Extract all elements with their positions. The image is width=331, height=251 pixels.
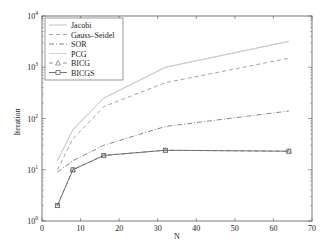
legend-entry: BICGS xyxy=(71,69,95,78)
legend: JacobiGauss–SeidelSORPCGBICGBICGS xyxy=(45,18,123,80)
series-line xyxy=(57,150,288,205)
legend-entry: Jacobi xyxy=(71,21,92,30)
series-line xyxy=(57,111,288,172)
x-tick-label: 10 xyxy=(77,224,85,233)
x-tick-label: 40 xyxy=(192,224,200,233)
x-tick-label: 20 xyxy=(115,224,123,233)
x-tick-label: 0 xyxy=(40,224,44,233)
x-tick-label: 60 xyxy=(269,224,277,233)
series-line xyxy=(57,150,288,205)
x-axis-label: N xyxy=(174,232,180,241)
legend-entry: SOR xyxy=(71,40,87,49)
legend-entry: Gauss–Seidel xyxy=(71,31,115,40)
y-tick-label: 104 xyxy=(27,10,38,21)
x-tick-label: 70 xyxy=(308,224,316,233)
y-tick-label: 101 xyxy=(27,164,38,175)
y-tick-label: 102 xyxy=(27,113,38,124)
x-tick-label: 30 xyxy=(154,224,162,233)
y-axis-label: Iteration xyxy=(13,108,22,135)
chart: 010203040506070 100101102103104 N Iterat… xyxy=(0,0,331,251)
x-tick-label: 50 xyxy=(231,224,239,233)
y-tick-label: 103 xyxy=(27,61,38,72)
legend-entry: BICG xyxy=(71,59,90,68)
legend-entry: PCG xyxy=(71,50,87,59)
y-tick-label: 100 xyxy=(27,215,38,226)
